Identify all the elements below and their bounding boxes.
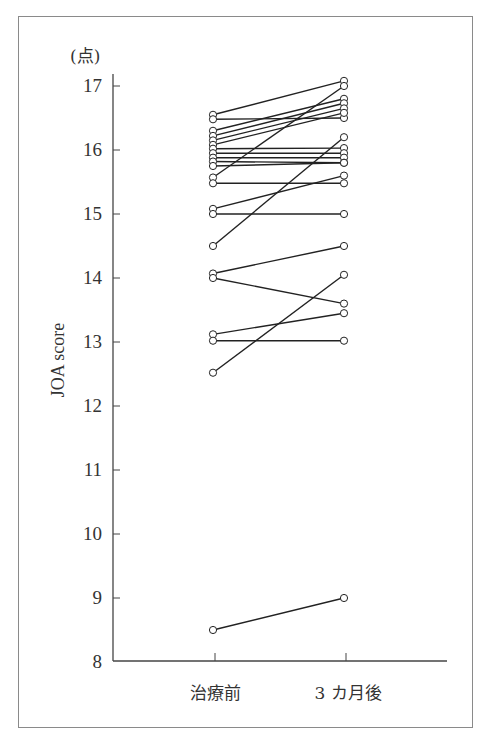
marker-after bbox=[340, 82, 347, 89]
marker-after bbox=[340, 210, 347, 217]
pair-line bbox=[213, 81, 344, 115]
marker-after bbox=[340, 271, 347, 278]
pair-line bbox=[213, 148, 344, 149]
marker-before bbox=[209, 116, 216, 123]
pair-line bbox=[213, 108, 344, 140]
marker-before bbox=[209, 162, 216, 169]
y-ticks bbox=[113, 86, 120, 598]
marker-after bbox=[340, 310, 347, 317]
marker-before bbox=[209, 210, 216, 217]
pair-line bbox=[213, 246, 344, 274]
marker-after bbox=[340, 134, 347, 141]
pair-line bbox=[213, 275, 344, 373]
marker-after bbox=[340, 109, 347, 116]
marker-before bbox=[209, 180, 216, 187]
marker-after bbox=[340, 594, 347, 601]
marker-after bbox=[340, 337, 347, 344]
marker-after bbox=[340, 180, 347, 187]
marker-before bbox=[209, 274, 216, 281]
marker-before bbox=[209, 626, 216, 633]
marker-before bbox=[209, 369, 216, 376]
pair-line bbox=[213, 598, 344, 630]
marker-after bbox=[340, 159, 347, 166]
pair-line bbox=[213, 113, 344, 145]
marker-after bbox=[340, 300, 347, 307]
marker-after bbox=[340, 242, 347, 249]
marker-before bbox=[209, 242, 216, 249]
marker-before bbox=[209, 337, 216, 344]
paired-lines bbox=[213, 81, 344, 630]
slope-plot bbox=[0, 0, 480, 738]
data-markers bbox=[209, 77, 347, 633]
marker-after bbox=[340, 172, 347, 179]
pair-line bbox=[213, 99, 344, 131]
pair-line bbox=[213, 278, 344, 304]
